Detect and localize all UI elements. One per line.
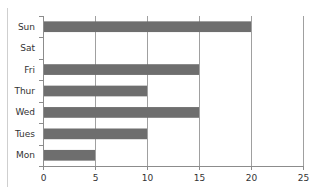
x-tick-label-0: 0 bbox=[41, 173, 47, 183]
bar-mon bbox=[44, 150, 95, 161]
bar-fri bbox=[44, 64, 199, 75]
bar-thur bbox=[44, 86, 147, 97]
x-tick-label-5: 5 bbox=[93, 173, 99, 183]
category-label-sat: Sat bbox=[20, 43, 35, 53]
x-tick-labels: 0510152025 bbox=[41, 173, 310, 183]
category-label-mon: Mon bbox=[16, 150, 35, 160]
x-tick-label-25: 25 bbox=[298, 173, 309, 183]
x-tick-label-15: 15 bbox=[194, 173, 205, 183]
bar-tues bbox=[44, 129, 147, 140]
x-tick-label-10: 10 bbox=[142, 173, 154, 183]
category-label-thur: Thur bbox=[13, 86, 35, 96]
category-label-fri: Fri bbox=[24, 65, 35, 75]
x-tick-label-20: 20 bbox=[246, 173, 258, 183]
bar-wed bbox=[44, 107, 199, 118]
category-label-sun: Sun bbox=[18, 22, 35, 32]
category-label-tues: Tues bbox=[14, 129, 35, 139]
bar-sun bbox=[44, 21, 251, 32]
bar-chart: 0510152025 MonTuesWedThurFriSatSun bbox=[0, 0, 314, 187]
category-label-wed: Wed bbox=[15, 107, 35, 117]
category-labels: MonTuesWedThurFriSatSun bbox=[13, 22, 35, 161]
